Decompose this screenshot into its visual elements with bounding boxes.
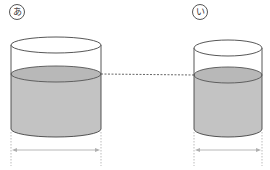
container-i-water-surface: [194, 67, 262, 83]
container-a-rim: [11, 37, 101, 53]
container-a: [11, 37, 101, 137]
container-i-width-arrow: [195, 148, 261, 152]
container-i-water: [194, 75, 262, 137]
container-a-water-surface: [11, 66, 101, 82]
container-i: [194, 40, 262, 137]
water-level-dashed-line: [101, 74, 194, 75]
container-a-width-arrow: [12, 148, 100, 152]
container-i-rim: [194, 40, 262, 56]
container-a-water: [11, 74, 101, 137]
cylinders-diagram: [0, 0, 270, 170]
